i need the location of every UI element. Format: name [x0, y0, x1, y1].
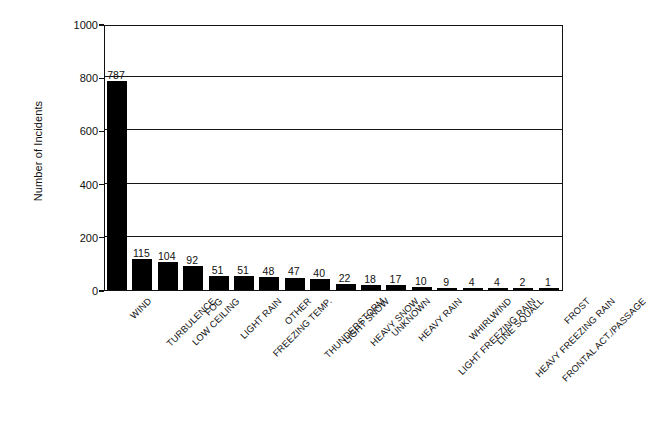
bar-value-label: 10 — [415, 275, 427, 287]
bar-value-label: 48 — [263, 265, 275, 277]
bar-value-label: 40 — [313, 267, 325, 279]
gridline-600 — [105, 129, 562, 130]
bar-value-label: 51 — [237, 264, 249, 276]
bar — [285, 278, 305, 291]
bar — [539, 288, 559, 290]
bar — [209, 276, 229, 290]
bar-value-label: 47 — [288, 265, 300, 277]
bar-value-label: 51 — [212, 264, 224, 276]
bar-value-label: 4 — [494, 276, 500, 288]
bar-value-label: 2 — [519, 276, 525, 288]
bar — [412, 287, 432, 290]
gridline-800 — [105, 76, 562, 77]
bar — [437, 288, 457, 290]
gridline-200 — [105, 236, 562, 237]
bar — [463, 288, 483, 290]
bar — [183, 266, 203, 290]
bar — [310, 279, 330, 290]
bar-value-label: 92 — [186, 254, 198, 266]
bar — [488, 288, 508, 290]
bar-value-label: 22 — [339, 272, 351, 284]
bar — [513, 288, 533, 290]
y-tick-label-800: 800 — [52, 72, 98, 84]
bar — [259, 277, 279, 290]
bar — [361, 285, 381, 290]
bar-value-label: 1 — [545, 276, 551, 288]
bar-value-label: 9 — [443, 276, 449, 288]
bar — [158, 262, 178, 290]
bar-value-label: 4 — [469, 276, 475, 288]
y-tick-label-200: 200 — [52, 232, 98, 244]
y-tick-label-400: 400 — [52, 179, 98, 191]
bar — [107, 81, 127, 290]
y-tick-label-0: 0 — [52, 285, 98, 297]
bar-value-label: 104 — [158, 250, 176, 262]
bar — [336, 284, 356, 290]
bar-value-label: 18 — [364, 273, 376, 285]
y-tick-label-600: 600 — [52, 125, 98, 137]
y-tick-label-1000: 1000 — [52, 19, 98, 31]
bar — [132, 259, 152, 290]
gridline-400 — [105, 183, 562, 184]
bar-value-label: 787 — [107, 69, 125, 81]
bar-value-label: 17 — [390, 273, 402, 285]
bar — [234, 276, 254, 290]
bar-value-label: 115 — [133, 247, 150, 259]
bar — [386, 285, 406, 290]
